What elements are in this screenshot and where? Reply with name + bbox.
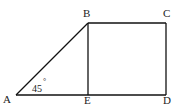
angle-value: 45 (32, 83, 42, 94)
point-label-b: B (83, 7, 90, 19)
geometry-diagram: A B C D E 45 ° (0, 0, 178, 107)
segment-ab (16, 23, 88, 95)
degree-symbol: ° (43, 77, 46, 86)
point-label-d: D (163, 94, 171, 106)
point-label-c: C (163, 7, 170, 19)
point-label-a: A (3, 93, 11, 105)
point-label-e: E (84, 94, 91, 106)
